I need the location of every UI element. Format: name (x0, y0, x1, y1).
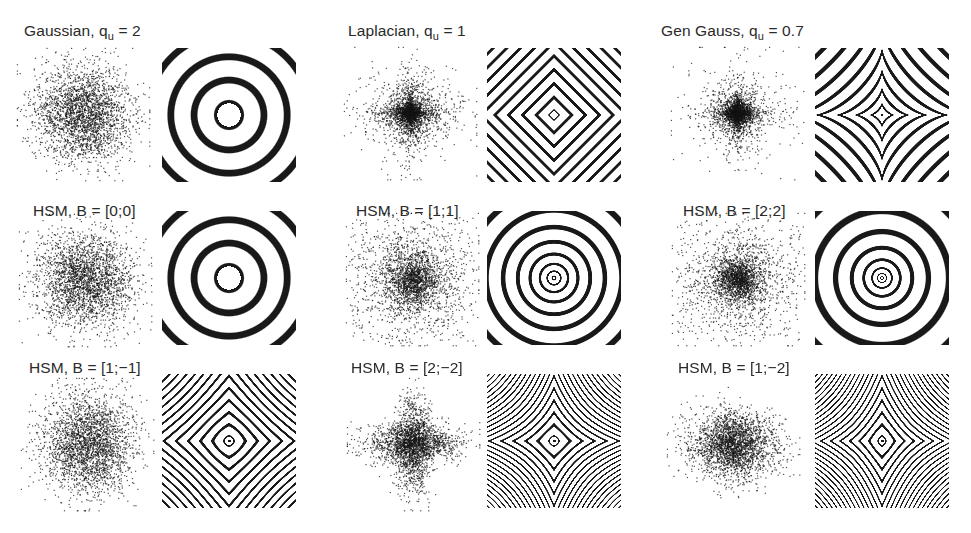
scatter-plot (5, 36, 161, 192)
contour-plot (815, 48, 949, 182)
scatter-plot (335, 366, 491, 522)
contour-plot (162, 211, 296, 345)
contour-plot (815, 211, 949, 345)
scatter-plot (334, 201, 490, 357)
contour-plot (487, 48, 621, 182)
scatter-plot (655, 366, 811, 522)
contour-plot (487, 374, 621, 508)
contour-plot (162, 48, 296, 182)
contour-plot (162, 374, 296, 508)
scatter-plot (7, 202, 163, 358)
scatter-plot (659, 35, 815, 191)
contour-plot (487, 211, 621, 345)
scatter-plot (660, 201, 816, 357)
contour-plot (815, 374, 949, 508)
scatter-plot (9, 366, 165, 522)
scatter-plot (332, 35, 488, 191)
